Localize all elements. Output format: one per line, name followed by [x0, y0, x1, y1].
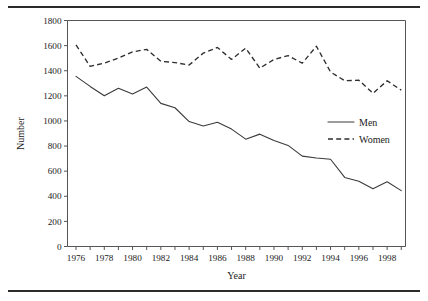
- x-tick-label: 1994: [321, 253, 340, 263]
- legend-label-men: Men: [359, 117, 377, 128]
- y-tick-label: 0: [57, 242, 62, 252]
- top-horizontal-rule: [8, 6, 420, 8]
- y-axis-title: Number: [15, 116, 26, 149]
- x-axis-title: Year: [227, 270, 246, 281]
- x-tick-label: 1976: [67, 253, 86, 263]
- chart-legend: Men Women: [328, 117, 390, 145]
- x-tick-label: 1982: [152, 253, 171, 263]
- figure-container: 020040060080010001200140016001800 197619…: [0, 0, 428, 301]
- x-tick-label: 1992: [293, 253, 312, 263]
- y-tick-label: 200: [48, 217, 62, 227]
- x-tick-label: 1980: [123, 253, 142, 263]
- y-tick-label: 1800: [43, 16, 62, 26]
- y-tick-label: 800: [48, 141, 62, 151]
- x-tick-label: 1996: [350, 253, 369, 263]
- y-tick-label: 1400: [43, 66, 62, 76]
- x-tick-label: 1990: [265, 253, 284, 263]
- series-line-women: [76, 45, 401, 93]
- bottom-horizontal-rule: [8, 290, 420, 292]
- x-tick-label: 1978: [95, 253, 114, 263]
- x-tick-label: 1988: [237, 253, 256, 263]
- x-axis-tick-labels: 1976197819801982198419861988199019921994…: [67, 253, 397, 263]
- y-tick-label: 1000: [43, 116, 62, 126]
- x-tick-label: 1998: [378, 253, 397, 263]
- series-line-men: [76, 76, 401, 190]
- axes-group: [68, 21, 406, 247]
- y-axis-tick-labels: 020040060080010001200140016001800: [43, 16, 62, 252]
- y-tick-label: 1600: [43, 41, 62, 51]
- x-tick-label: 1986: [208, 253, 227, 263]
- y-tick-label: 600: [48, 166, 62, 176]
- y-tick-label: 1200: [43, 91, 62, 101]
- y-tick-label: 400: [48, 191, 62, 201]
- line-chart: 020040060080010001200140016001800 197619…: [0, 0, 428, 301]
- axis-frame: [68, 21, 406, 247]
- x-tick-label: 1984: [180, 253, 199, 263]
- x-axis-tick-marks: [76, 247, 401, 251]
- legend-label-women: Women: [359, 134, 390, 145]
- y-axis-tick-marks: [64, 21, 68, 247]
